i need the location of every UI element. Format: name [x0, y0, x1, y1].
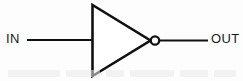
scan-ghost-4 — [130, 70, 174, 77]
input-port-label: IN — [6, 32, 20, 46]
logic-gate-svg — [0, 0, 243, 81]
inversion-bubble-icon — [151, 36, 159, 44]
inverter-diagram-canvas: IN OUT — [0, 0, 243, 81]
scan-ghost-2 — [66, 70, 100, 77]
output-port-label: OUT — [211, 32, 240, 46]
scan-ghost-6 — [214, 70, 236, 77]
scan-ghost-1 — [8, 70, 60, 77]
scan-ghost-3 — [106, 70, 124, 77]
not-gate-triangle — [93, 5, 151, 76]
scan-ghost-5 — [180, 70, 208, 77]
